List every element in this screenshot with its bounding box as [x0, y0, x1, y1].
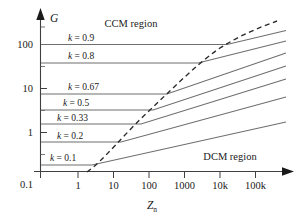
k-value-0.2: 0.2 — [71, 131, 83, 141]
x-tick-label-1: 1 — [75, 180, 80, 191]
series-label-k-0.5: k = 0.5 — [63, 98, 89, 108]
y-axis-label: G — [50, 12, 59, 24]
x-axis-ticks — [41, 172, 256, 179]
x-axis-label: Zn — [147, 199, 157, 214]
x-tick-label-1000: 1000 — [174, 180, 195, 191]
k-equals-0.9: = — [72, 33, 82, 43]
k-value-0.5: 0.5 — [77, 98, 89, 108]
series-label-k-0.1: k = 0.1 — [50, 153, 76, 163]
x-axis-label-subscript: n — [153, 205, 157, 214]
series-label-k-0.8: k = 0.8 — [68, 51, 94, 61]
ccm-region-label: CCM region — [105, 18, 159, 29]
y-tick-label-1: 1 — [28, 127, 33, 138]
figure-container: 100 10 1 0.1 1 10 100 1000 10k 100k G Zn — [0, 0, 306, 216]
k-equals-0.1: = — [54, 153, 64, 163]
dcm-region-label: DCM region — [203, 151, 257, 162]
ccm-dcm-boundary-line — [87, 21, 277, 172]
x-tick-label-100: 100 — [141, 180, 157, 191]
x-tick-label-10k: 10k — [212, 180, 229, 191]
k-value-0.8: 0.8 — [82, 51, 94, 61]
y-tick-label-10: 10 — [23, 83, 34, 94]
k-series-labels: k = 0.9 k = 0.8 k = 0.67 k = 0.5 k = 0.3… — [50, 33, 99, 163]
series-label-k-0.33: k = 0.33 — [57, 113, 88, 123]
x-tick-label-100k: 100k — [245, 180, 267, 191]
series-label-k-0.2: k = 0.2 — [57, 131, 83, 141]
y-tick-labels: 100 10 1 0.1 — [17, 39, 33, 190]
x-tick-labels: 1 10 100 1000 10k 100k — [75, 180, 266, 191]
k-value-0.1: 0.1 — [64, 153, 76, 163]
k-value-0.9: 0.9 — [82, 33, 94, 43]
k-equals-0.33: = — [61, 113, 71, 123]
y-tick-label-100: 100 — [17, 39, 33, 50]
y-axis-arrowhead — [36, 8, 44, 20]
k-value-0.33: 0.33 — [71, 113, 88, 123]
k-value-0.67: 0.67 — [82, 82, 99, 92]
x-axis-arrowhead — [282, 167, 294, 175]
y-tick-label-0.1: 0.1 — [20, 179, 33, 190]
x-tick-label-10: 10 — [108, 180, 119, 191]
k-equals-0.8: = — [72, 51, 82, 61]
k-equals-0.5: = — [67, 98, 77, 108]
series-label-k-0.67: k = 0.67 — [68, 82, 99, 92]
gain-vs-normalized-impedance-chart: 100 10 1 0.1 1 10 100 1000 10k 100k G Zn — [0, 0, 306, 216]
k-equals-0.2: = — [61, 131, 71, 141]
series-label-k-0.9: k = 0.9 — [68, 33, 94, 43]
k-equals-0.67: = — [72, 82, 82, 92]
